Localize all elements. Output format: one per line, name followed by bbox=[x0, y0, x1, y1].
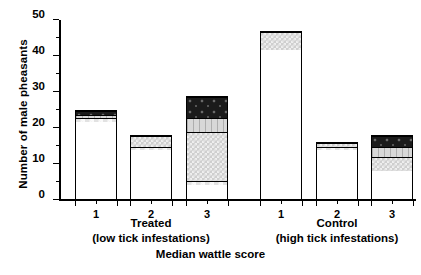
y-tick-minor bbox=[56, 145, 60, 146]
bar-segment-light-gray bbox=[372, 147, 412, 157]
y-tick-label: 10 bbox=[32, 152, 45, 164]
y-tick: 40 bbox=[53, 55, 59, 56]
x-tick-minor bbox=[337, 200, 338, 204]
x-tick bbox=[172, 200, 173, 206]
x-tick bbox=[260, 200, 261, 206]
y-tick-label: 0 bbox=[39, 188, 45, 200]
group-label-control: Control(high tick infestations) bbox=[276, 216, 399, 246]
y-tick-minor bbox=[56, 109, 60, 110]
y-axis-title: Number of male pheasants bbox=[17, 19, 29, 209]
y-tick-minor bbox=[56, 37, 60, 38]
bar-segment-light-gray bbox=[187, 118, 227, 132]
x-tick bbox=[228, 200, 229, 206]
y-tick-label: 50 bbox=[32, 8, 45, 20]
bar-segment-dark-speckle bbox=[187, 97, 227, 118]
x-tick bbox=[358, 200, 359, 206]
group-sublabel: (low tick infestations) bbox=[92, 231, 210, 246]
x-axis-title: Median wattle score bbox=[0, 248, 421, 260]
bar-treated-2[interactable] bbox=[130, 135, 172, 200]
bar-segment-white bbox=[372, 171, 412, 199]
bar-segment-dark-speckle bbox=[372, 136, 412, 146]
x-tick bbox=[186, 200, 187, 206]
x-tick bbox=[130, 200, 131, 206]
x-tick bbox=[75, 200, 76, 206]
y-tick-label: 20 bbox=[32, 116, 45, 128]
bar-segment-mid-check bbox=[187, 132, 227, 181]
x-tick-minor bbox=[207, 200, 208, 204]
group-name: Control bbox=[276, 216, 399, 231]
x-tick bbox=[117, 200, 118, 206]
bar-segment-white bbox=[261, 50, 301, 199]
bar-segment-white bbox=[76, 122, 116, 199]
bar-segment-white bbox=[317, 150, 357, 199]
y-tick: 0 bbox=[53, 199, 59, 200]
bar-segment-white bbox=[131, 150, 171, 199]
group-name: Treated bbox=[92, 216, 210, 231]
bar-treated-3[interactable] bbox=[186, 96, 228, 200]
bar-segment-mid-check bbox=[261, 32, 301, 50]
bar-segment-white bbox=[187, 185, 227, 199]
bar-segment-mid-check bbox=[131, 136, 171, 146]
y-tick-minor bbox=[56, 73, 60, 74]
y-tick-label: 40 bbox=[32, 44, 45, 56]
bar-control-2[interactable] bbox=[316, 142, 358, 200]
y-tick: 50 bbox=[53, 19, 59, 20]
x-tick-minor bbox=[281, 200, 282, 204]
y-tick-label: 30 bbox=[32, 80, 45, 92]
x-tick-minor bbox=[151, 200, 152, 204]
bar-segment-mid-check bbox=[372, 157, 412, 171]
x-tick bbox=[413, 200, 414, 206]
bar-control-3[interactable] bbox=[371, 135, 413, 200]
x-tick bbox=[371, 200, 372, 206]
x-tick bbox=[302, 200, 303, 206]
y-tick: 10 bbox=[53, 163, 59, 164]
x-tick bbox=[316, 200, 317, 206]
y-tick-minor bbox=[56, 181, 60, 182]
bar-treated-1[interactable] bbox=[75, 110, 117, 200]
chart-figure: Number of male pheasants 010203040501231… bbox=[0, 0, 421, 275]
x-tick-minor bbox=[392, 200, 393, 204]
group-sublabel: (high tick infestations) bbox=[276, 231, 399, 246]
y-tick: 30 bbox=[53, 91, 59, 92]
bar-control-1[interactable] bbox=[260, 31, 302, 200]
plot-area: 01020304050123123 bbox=[59, 20, 416, 200]
x-tick-minor bbox=[96, 200, 97, 204]
y-tick: 20 bbox=[53, 127, 59, 128]
group-label-treated: Treated(low tick infestations) bbox=[92, 216, 210, 246]
